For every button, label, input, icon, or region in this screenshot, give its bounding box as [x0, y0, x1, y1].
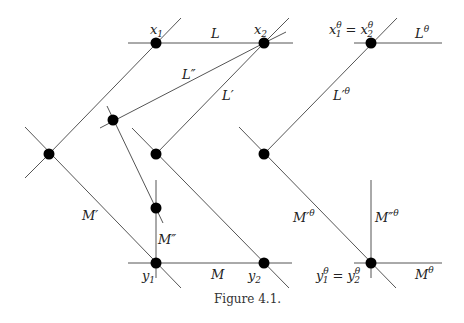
node-b: [151, 149, 162, 160]
label-L-double-prime: L″: [181, 67, 196, 82]
label-M-double-prime: M″: [157, 232, 176, 247]
label-x-theta-equality: xθ1=xθ2: [329, 20, 374, 39]
node-y1: [151, 258, 162, 269]
label-M-prime: M′: [81, 208, 98, 223]
label-L: L: [210, 26, 220, 41]
figure-caption: Figure 4.1.: [214, 292, 281, 306]
figure-4-1-diagram: x1 x2 L L″ L′ xθ1=xθ2 Lθ L′θ M′ M″ y1 M …: [0, 0, 464, 323]
node-x1: [151, 38, 162, 49]
label-L-prime: L′: [221, 88, 234, 103]
label-y-theta-equality: yθ1=yθ2: [315, 266, 361, 285]
node-a: [108, 115, 119, 126]
node-x2: [259, 38, 270, 49]
node-left: [44, 149, 55, 160]
node-y2: [259, 258, 270, 269]
label-M-double-prime-theta: M″θ: [374, 208, 399, 225]
label-L-prime-theta: L′θ: [332, 86, 351, 103]
node-c: [151, 203, 162, 214]
node-x-theta: [366, 38, 377, 49]
label-x1: x1: [150, 22, 163, 39]
node-right: [259, 149, 270, 160]
label-x2: x2: [254, 22, 267, 39]
label-L-theta: Lθ: [414, 24, 430, 41]
line-L-prime-theta: [264, 18, 397, 154]
label-M-prime-theta: M′θ: [292, 208, 315, 225]
node-y-theta: [366, 258, 377, 269]
label-y1: y1: [141, 268, 155, 285]
line-L-double-prime: [100, 43, 264, 128]
label-y2: y2: [247, 268, 261, 285]
label-M: M: [210, 267, 225, 282]
label-M-theta: Mθ: [414, 265, 434, 282]
line-L-prime: [156, 43, 264, 154]
